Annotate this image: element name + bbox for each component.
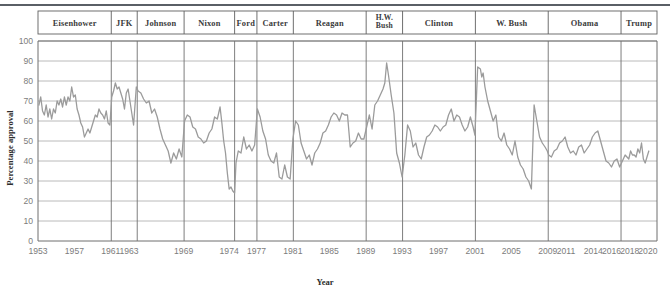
president-band-label-w-bush: W. Bush — [496, 19, 527, 28]
chart-canvas: EisenhowerJFKJohnsonNixonFordCarterReaga… — [0, 0, 670, 296]
x-tick-label-1957: 1957 — [65, 246, 84, 256]
y-tick-label-60: 60 — [23, 116, 33, 126]
x-tick-label-1997: 1997 — [429, 246, 448, 256]
y-tick-label-40: 40 — [23, 156, 33, 166]
approval-line-series — [39, 63, 649, 193]
president-band-label-clinton: Clinton — [425, 19, 454, 28]
approval-line — [39, 63, 649, 193]
x-tick-label-2014: 2014 — [584, 246, 603, 256]
president-band-header: EisenhowerJFKJohnsonNixonFordCarterReaga… — [38, 11, 657, 34]
x-tick-label-2011: 2011 — [557, 246, 576, 256]
y-tick-label-100: 100 — [19, 36, 34, 46]
x-tick-label-2001: 2001 — [465, 246, 484, 256]
x-tick-label-2005: 2005 — [502, 246, 521, 256]
x-tick-label-1977: 1977 — [247, 246, 266, 256]
y-tick-label-30: 30 — [23, 176, 33, 186]
x-tick-label-1981: 1981 — [283, 246, 302, 256]
x-tick-label-2020: 2020 — [638, 246, 657, 256]
x-tick-label-1989: 1989 — [356, 246, 375, 256]
x-tick-label-1993: 1993 — [393, 246, 412, 256]
x-tick-label-1985: 1985 — [320, 246, 339, 256]
y-axis-title: Percentage approval — [5, 110, 15, 186]
y-tick-label-50: 50 — [23, 136, 33, 146]
president-band-label-nixon: Nixon — [198, 19, 221, 28]
gridlines — [38, 41, 657, 221]
president-band-label-jfk: JFK — [116, 19, 133, 28]
president-band-label-carter: Carter — [262, 19, 287, 28]
y-tick-label-90: 90 — [23, 56, 33, 66]
y-tick-label-80: 80 — [23, 76, 33, 86]
president-band-label-eisenhower: Eisenhower — [53, 19, 97, 28]
president-band-label-johnson: Johnson — [145, 19, 176, 28]
x-tick-label-1969: 1969 — [174, 246, 193, 256]
y-tick-label-20: 20 — [23, 196, 33, 206]
x-tick-label-1963: 1963 — [119, 246, 138, 256]
y-axis-ticks: 0102030405060708090100 — [19, 36, 34, 246]
presidential-approval-chart: EisenhowerJFKJohnsonNixonFordCarterReaga… — [0, 0, 670, 296]
y-tick-label-70: 70 — [23, 96, 33, 106]
president-band-label-obama: Obama — [571, 19, 599, 28]
x-tick-label-1974: 1974 — [220, 246, 239, 256]
y-tick-label-10: 10 — [23, 216, 33, 226]
president-band-label-reagan: Reagan — [316, 19, 344, 28]
president-band-label-h-w-bush: H.W.Bush — [376, 13, 394, 30]
x-tick-label-2018: 2018 — [620, 246, 639, 256]
x-tick-label-2016: 2016 — [602, 246, 621, 256]
president-band-label-ford: Ford — [237, 19, 256, 28]
x-tick-label-1961: 1961 — [101, 246, 120, 256]
x-axis-title: Year — [316, 277, 333, 287]
x-tick-label-2009: 2009 — [538, 246, 557, 256]
x-tick-label-1953: 1953 — [28, 246, 47, 256]
y-tick-label-0: 0 — [28, 236, 33, 246]
x-axis-ticks: 1953195719611963196919741977198119851989… — [28, 246, 657, 256]
president-band-label-trump: Trump — [626, 19, 652, 28]
